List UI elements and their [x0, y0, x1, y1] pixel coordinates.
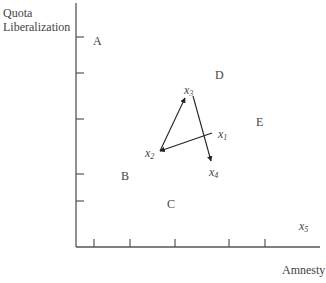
point-D: D	[215, 69, 224, 82]
point-C: C	[167, 198, 175, 211]
x-axis-label: Amnesty	[282, 264, 325, 277]
point-E: E	[256, 116, 263, 129]
point-B: B	[121, 170, 129, 183]
label-x5: x5	[299, 220, 308, 236]
y-axis-label-line2: Liberalization	[3, 21, 70, 34]
y-ticks	[76, 37, 84, 201]
label-x2: x2	[145, 147, 154, 163]
x-ticks	[94, 239, 265, 247]
point-A: A	[93, 35, 102, 48]
arrow-x2-to-x3	[160, 98, 185, 151]
label-x1: x1	[218, 128, 227, 144]
label-x4: x4	[209, 166, 218, 182]
label-x3: x3	[184, 84, 193, 100]
arrow-x3-to-x4	[193, 96, 211, 161]
y-axis-label-line1: Quota	[3, 7, 32, 20]
diagram-canvas	[0, 0, 326, 283]
